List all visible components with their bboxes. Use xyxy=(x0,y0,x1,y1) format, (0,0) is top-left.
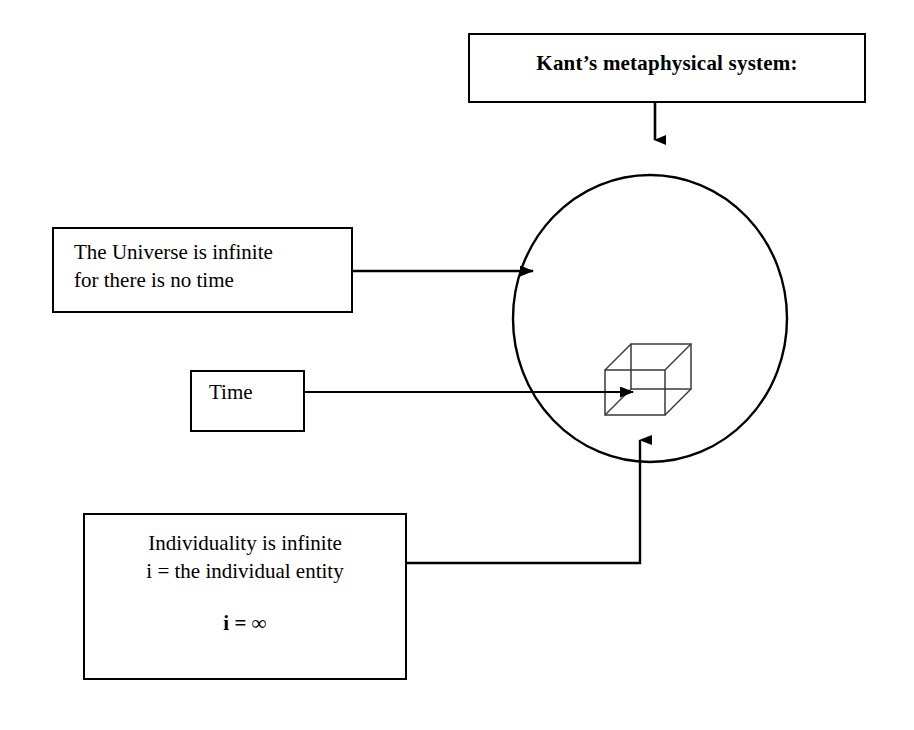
diagram-canvas: Kant’s metaphysical system: The Universe… xyxy=(0,0,914,730)
universe-circle xyxy=(513,175,787,462)
arrow-up-into-cube xyxy=(407,440,640,563)
universe-label: The Universe is infinite for there is no… xyxy=(74,239,343,294)
universe-box[interactable]: The Universe is infinite for there is no… xyxy=(52,227,353,313)
time-label: Time xyxy=(209,380,297,406)
wireframe-cube xyxy=(605,344,691,415)
kant-title-label: Kant’s metaphysical system: xyxy=(470,51,864,77)
individuality-box[interactable]: Individuality is infinite i = the indivi… xyxy=(83,513,407,680)
individuality-formula: i = ∞ xyxy=(85,611,405,637)
kant-title-box[interactable]: Kant’s metaphysical system: xyxy=(468,33,866,103)
individuality-label: Individuality is infinite i = the indivi… xyxy=(85,529,405,585)
time-box[interactable]: Time xyxy=(190,370,305,432)
